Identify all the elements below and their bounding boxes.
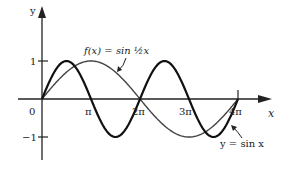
annotation-sin-label: y = sin x — [219, 138, 264, 149]
y-axis-arrow-icon — [38, 6, 46, 18]
x-axis-label: x — [268, 107, 275, 120]
tick-label-2pi: 2π — [132, 106, 145, 117]
x-axis-arrow-icon — [258, 95, 272, 103]
chart: y x 0 π 2π 3π 4π 1 −1 f(x) = sin ½x y = … — [0, 0, 293, 170]
arrow-head-icon — [117, 66, 122, 72]
tick-label-neg1: −1 — [22, 132, 37, 143]
origin-label: 0 — [29, 106, 35, 117]
tick-label-pi: π — [85, 106, 92, 117]
tick-label-3pi: 3π — [179, 106, 192, 117]
annotation-f-label: f(x) = sin ½x — [83, 45, 150, 56]
tick-label-4pi: 4π — [229, 106, 242, 117]
tick-label-1: 1 — [30, 56, 36, 67]
y-axis-label: y — [29, 5, 36, 16]
